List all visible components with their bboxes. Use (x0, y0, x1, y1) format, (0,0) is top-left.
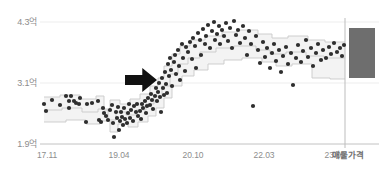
scatter-point (181, 56, 185, 60)
scatter-point (212, 20, 216, 24)
scatter-point (165, 91, 169, 95)
scatter-point (85, 102, 89, 106)
scatter-point (134, 110, 138, 114)
scatter-point (184, 45, 188, 49)
scatter-point (226, 39, 230, 43)
scatter-point (115, 116, 119, 120)
scatter-point (217, 24, 221, 28)
scatter-point (268, 66, 272, 70)
scatter-point (139, 117, 143, 121)
y-axis-tick-1: 3.1억 (4, 78, 37, 88)
scatter-point (263, 55, 267, 59)
scatter-point (78, 96, 82, 100)
scatter-point (161, 86, 165, 90)
scatter-point (160, 76, 164, 80)
scatter-point (274, 59, 278, 63)
scatter-point (155, 99, 159, 103)
scatter-point (67, 106, 71, 110)
scatter-point (172, 60, 176, 64)
scatter-point (99, 120, 103, 124)
scatter-point (286, 62, 290, 66)
scatter-point (203, 42, 207, 46)
scatter-point (261, 40, 265, 44)
scatter-point (301, 49, 305, 53)
scatter-point (153, 94, 157, 98)
scatter-point (127, 102, 131, 106)
scatter-point (125, 121, 129, 125)
scatter-point (166, 62, 170, 66)
scatter-point (299, 60, 303, 64)
scatter-point (163, 70, 167, 74)
scatter-point (126, 111, 130, 115)
scatter-point (311, 64, 315, 68)
scatter-point (119, 110, 123, 114)
scatter-point (106, 118, 110, 122)
scatter-point (77, 102, 81, 106)
scatter-point (201, 27, 205, 31)
scatter-point (210, 29, 214, 33)
scatter-point (254, 34, 258, 38)
scatter-point (340, 54, 344, 58)
scatter-point (84, 120, 88, 124)
scatter-point (193, 44, 197, 48)
scatter-point (156, 90, 160, 94)
scatter-point (157, 81, 161, 85)
scatter-point (141, 106, 145, 110)
scatter-point (168, 56, 172, 60)
scatter-point (251, 104, 255, 108)
scatter-point (159, 110, 163, 114)
scatter-point (342, 43, 346, 47)
scatter-point (170, 84, 174, 88)
listing-price-range-bar[interactable] (349, 28, 375, 78)
scatter-point (129, 108, 133, 112)
scatter-point (118, 119, 122, 123)
scatter-point (123, 117, 127, 121)
scatter-point (241, 24, 245, 28)
y-axis-tick-0: 4.3억 (4, 17, 37, 27)
scatter-point (58, 103, 62, 107)
scatter-point (167, 74, 171, 78)
scatter-point (213, 38, 217, 42)
scatter-point (272, 42, 276, 46)
scatter-point (228, 26, 232, 30)
scatter-point (289, 51, 293, 55)
scatter-point (101, 106, 105, 110)
listing-price-bar (349, 28, 375, 78)
chart-canvas (0, 0, 379, 174)
scatter-point (234, 33, 238, 37)
scatter-point (140, 102, 144, 106)
scatter-point (186, 50, 190, 54)
x-axis-end-label: 매물가격 (332, 150, 364, 160)
scatter-point (224, 21, 228, 25)
scatter-point (215, 32, 219, 36)
scatter-point (138, 109, 142, 113)
scatter-point (50, 98, 54, 102)
scatter-point (131, 119, 135, 123)
scatter-point (332, 41, 336, 45)
scatter-point (258, 61, 262, 65)
x-axis-tick-2: 20.10 (178, 150, 208, 160)
scatter-point (329, 52, 333, 56)
scatter-point (208, 46, 212, 50)
scatter-point (143, 99, 147, 103)
scatter-point (121, 123, 125, 127)
scatter-point (198, 38, 202, 42)
scatter-point (304, 38, 308, 42)
scatter-point (108, 108, 112, 112)
scatter-point (296, 43, 300, 47)
scatter-point (294, 56, 298, 60)
scatter-point (169, 68, 173, 72)
scatter-point (238, 41, 242, 45)
scatter-point (117, 128, 121, 132)
scatter-point (196, 31, 200, 35)
scatter-point (284, 45, 288, 49)
scatter-point (270, 51, 274, 55)
scatter-point (230, 46, 234, 50)
scatter-point (144, 111, 148, 115)
scatter-point (149, 92, 153, 96)
scatter-point (178, 78, 182, 82)
x-axis-tick-0: 17.11 (32, 150, 62, 160)
scatter-point (148, 103, 152, 107)
scatter-point (309, 46, 313, 50)
y-axis-tick-2: 1.9억 (4, 139, 37, 149)
